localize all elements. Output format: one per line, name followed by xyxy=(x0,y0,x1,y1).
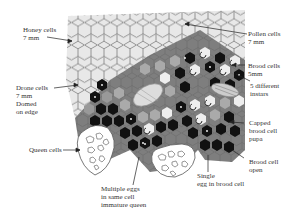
label-single-egg: Single egg in brood cell xyxy=(197,172,244,188)
label-queen-cells: Queen cells xyxy=(29,146,62,154)
label-brood-open: Brood cell open xyxy=(249,158,278,174)
label-drone-cells: Drone cells 7 mm Domed on edge xyxy=(16,84,48,116)
label-multiple-eggs: Multiple eggs in same cell immature quee… xyxy=(101,185,146,209)
label-instars: 5 different instars xyxy=(250,82,279,98)
label-honey-cells: Honey cells 7 mm xyxy=(23,26,56,42)
honeycomb-diagram: Honey cells 7 mm Drone cells 7 mm Domed … xyxy=(0,0,298,213)
label-pollen-cells: Pollen cells 7 mm xyxy=(248,30,280,46)
label-capped-brood: Capped brood cell pupa xyxy=(249,119,277,143)
label-brood-cells: Brood cells 5mm xyxy=(248,62,280,78)
